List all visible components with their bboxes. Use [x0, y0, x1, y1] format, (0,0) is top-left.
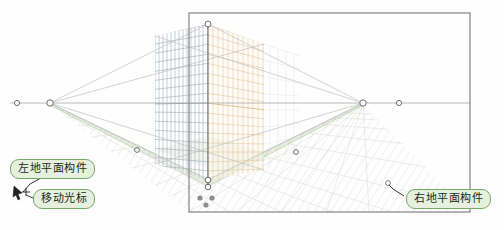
handle-left-vanishing-point	[47, 100, 53, 106]
right-wall-grid[interactable]	[206, 20, 266, 184]
handle-right-vanishing-point	[360, 100, 366, 106]
perspective-grid-canvas[interactable]: 左地平面构件 移动光标 右地平面构件	[0, 0, 504, 230]
handle-left-outer	[14, 100, 19, 105]
handle-bottom-apex-lower	[205, 184, 211, 190]
left-wall-grid[interactable]	[150, 24, 210, 181]
handle-top-apex	[205, 21, 211, 27]
dot-marker	[209, 195, 214, 200]
dot-marker	[203, 202, 208, 207]
handle-right-ground-edge	[294, 150, 299, 155]
callout-left-ground-plane: 左地平面构件	[10, 159, 95, 179]
move-cursor-icon	[13, 186, 30, 200]
right-callout-anchor	[386, 181, 391, 186]
handle-right-outer	[396, 100, 401, 105]
handle-left-ground-edge	[135, 148, 140, 153]
dot-marker	[197, 195, 202, 200]
callout-move-cursor: 移动光标	[33, 189, 95, 209]
handle-bottom-apex	[205, 177, 211, 183]
callout-right-ground-plane: 右地平面构件	[406, 189, 491, 209]
